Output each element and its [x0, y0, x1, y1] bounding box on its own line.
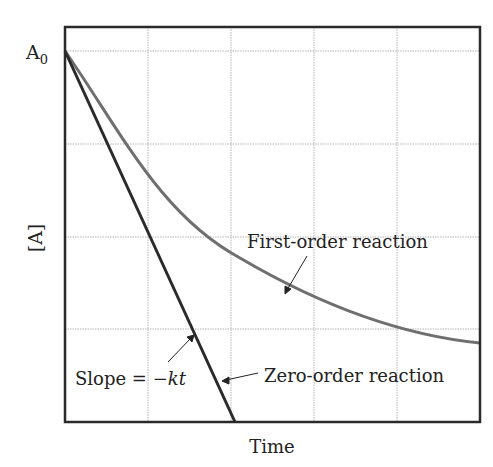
plot-frame — [65, 27, 480, 422]
zero-order-label: Zero-order reaction — [264, 365, 445, 386]
x-axis-label: Time — [249, 436, 294, 457]
grid — [65, 27, 480, 422]
y-axis-label: [A] — [24, 224, 46, 253]
first-order-curve — [65, 51, 480, 343]
rate-chart: A0 [A] Time First-order reaction Zero-or… — [0, 0, 493, 467]
slope-label: Slope = −kt — [75, 368, 187, 389]
first-order-label: First-order reaction — [247, 231, 428, 252]
a0-label: A0 — [25, 41, 48, 67]
